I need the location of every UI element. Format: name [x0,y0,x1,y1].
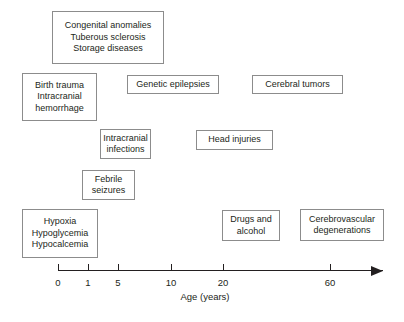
right-arrow-icon [371,266,383,276]
condition-box-cerebral-tumors: Cerebral tumors [252,75,343,94]
condition-box-line: Febrile [95,174,123,186]
condition-box-line: Head injuries [208,134,261,146]
condition-box-line: hemorrhage [35,103,84,115]
condition-box-line: degenerations [313,225,370,237]
condition-box-line: Congenital anomalies [65,20,152,32]
condition-box-drugs-alcohol: Drugs andalcohol [222,210,280,241]
condition-box-intracranial-infections: Intracranialinfections [100,129,151,159]
condition-box-line: infections [106,144,144,156]
condition-box-head-injuries: Head injuries [196,130,273,150]
axis-tick-label: 60 [315,277,345,288]
condition-box-hypoxia: HypoxiaHypoglycemiaHypocalcemia [22,209,98,258]
condition-box-line: Storage diseases [73,43,143,55]
condition-box-line: Hypoxia [44,216,77,228]
condition-box-line: Genetic epilepsies [136,79,210,91]
condition-box-line: Hypocalcemia [32,239,89,251]
condition-box-line: Hypoglycemia [32,228,89,240]
axis-tick-label: 10 [156,277,186,288]
condition-box-line: Birth trauma [35,80,84,92]
axis-tick [171,264,172,270]
axis-tick [330,264,331,270]
condition-box-line: Drugs and [230,214,272,226]
axis-tick [223,264,224,270]
axis-tick-label: 5 [103,277,133,288]
condition-box-birth-trauma: Birth traumaIntracranialhemorrhage [22,73,97,121]
condition-box-genetic-epilepsies: Genetic epilepsies [127,75,219,94]
condition-box-line: Tuberous sclerosis [70,32,145,44]
condition-box-line: Cerebrovascular [309,214,375,226]
condition-box-line: Intracranial [103,133,148,145]
axis-tick [58,264,59,270]
axis-tick-label: 1 [73,277,103,288]
axis-tick [118,264,119,270]
condition-box-cerebrovascular: Cerebrovasculardegenerations [300,209,384,241]
axis-line [58,270,383,271]
age-related-causes-of-seizures-diagram: Congenital anomaliesTuberous sclerosisSt… [0,0,404,322]
axis-tick [88,264,89,270]
condition-box-febrile-seizures: Febrileseizures [82,170,135,200]
axis-title: Age (years) [155,291,255,302]
axis-tick-label: 20 [208,277,238,288]
condition-box-line: Cerebral tumors [265,79,330,91]
axis-tick-label: 0 [43,277,73,288]
condition-box-line: alcohol [237,226,266,238]
condition-box-line: seizures [92,185,126,197]
condition-box-line: Intracranial [37,91,82,103]
condition-box-congenital: Congenital anomaliesTuberous sclerosisSt… [52,11,164,64]
